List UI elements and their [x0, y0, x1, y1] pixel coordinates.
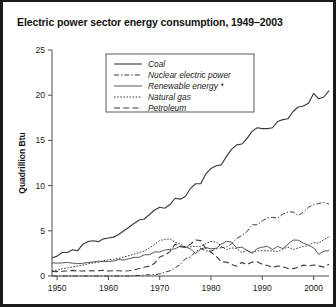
legend-label-coal: Coal	[148, 59, 166, 69]
x-axis: 195019601970198019902000	[48, 276, 329, 293]
legend-label-petroleum: Petroleum	[148, 103, 186, 113]
series-line-coal	[52, 91, 329, 258]
y-tick-label: 10	[36, 181, 46, 191]
y-tick-label: 0	[40, 271, 45, 281]
y-axis-label: Quadrillion Btu	[17, 132, 27, 193]
x-tick-label: 1950	[48, 283, 67, 293]
y-tick-label: 5	[40, 226, 45, 236]
legend-label-renewable: Renewable energy *	[148, 81, 224, 91]
x-tick-label: 1970	[150, 283, 169, 293]
series-line-nuclear-electric-power	[52, 202, 329, 276]
legend-label-nuclear: Nuclear electric power	[148, 70, 232, 80]
y-tick-label: 20	[36, 90, 46, 100]
y-axis: 0510152025Quadrillion Btu	[17, 45, 52, 281]
chart-legend: CoalNuclear electric powerRenewable ener…	[106, 54, 254, 113]
chart-figure: Electric power sector energy consumption…	[0, 0, 336, 307]
x-tick-label: 1980	[202, 283, 221, 293]
y-tick-label: 15	[36, 135, 46, 145]
y-tick-label: 25	[36, 45, 46, 55]
x-tick-label: 2000	[304, 283, 323, 293]
series-line-natural-gas	[52, 237, 329, 271]
series-lines	[52, 91, 329, 276]
x-tick-label: 1960	[99, 283, 118, 293]
legend-label-natural_gas: Natural gas	[148, 92, 192, 102]
chart-plot-area: 0510152025Quadrillion Btu 19501960197019…	[3, 2, 336, 307]
x-tick-label: 1990	[253, 283, 272, 293]
